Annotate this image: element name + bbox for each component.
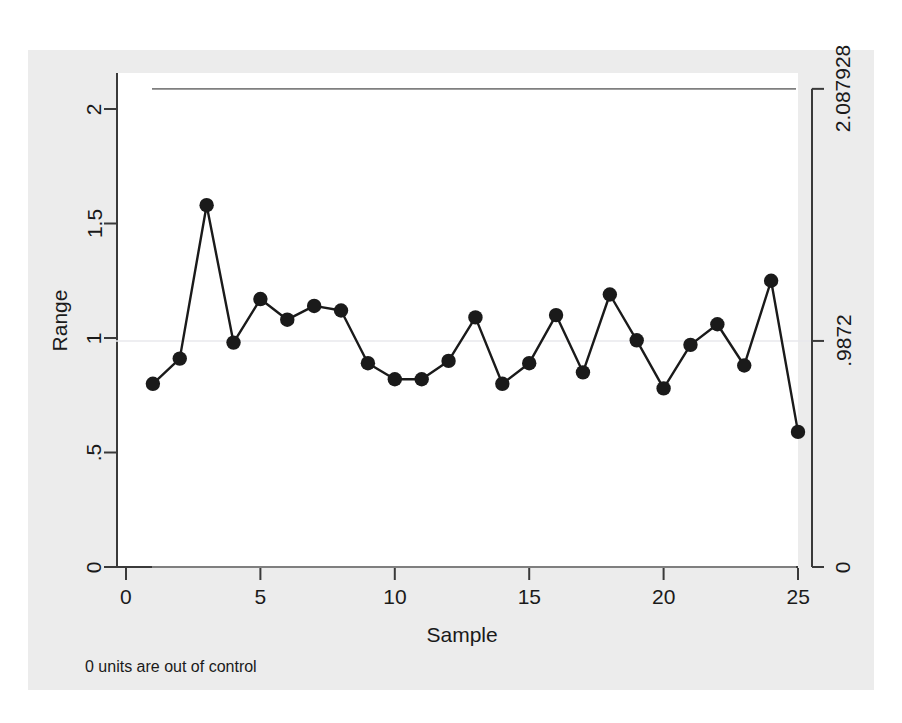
x-axis-title: Sample bbox=[427, 624, 498, 645]
data-point bbox=[280, 312, 294, 326]
data-point bbox=[226, 335, 240, 349]
x-tick-label-0: 0 bbox=[120, 586, 132, 607]
y-axis-title: Range bbox=[49, 289, 70, 351]
data-point bbox=[522, 356, 536, 370]
data-point bbox=[307, 299, 321, 313]
limit-label-cl: .9872 bbox=[832, 315, 853, 368]
y-tick-label-2: 2 bbox=[83, 103, 104, 115]
chart-svg bbox=[0, 0, 902, 723]
data-point bbox=[334, 303, 348, 317]
data-point bbox=[468, 310, 482, 324]
limit-label-ucl: 2.087928 bbox=[832, 45, 853, 133]
series-markers bbox=[146, 198, 806, 439]
data-point bbox=[388, 372, 402, 386]
x-tick-label-10: 10 bbox=[383, 586, 406, 607]
y-tick-label-.5: .5 bbox=[83, 444, 104, 462]
data-point bbox=[441, 354, 455, 368]
y-tick-label-0: 0 bbox=[83, 561, 104, 573]
data-point bbox=[549, 308, 563, 322]
x-tick-label-20: 20 bbox=[652, 586, 675, 607]
data-point bbox=[576, 365, 590, 379]
chart-canvas: Range Sample 0.511.5205101520252.087928.… bbox=[0, 0, 902, 723]
data-point bbox=[146, 377, 160, 391]
data-point bbox=[737, 358, 751, 372]
out-of-control-note: 0 units are out of control bbox=[85, 658, 257, 676]
data-point bbox=[791, 425, 805, 439]
data-point bbox=[361, 356, 375, 370]
data-point bbox=[710, 317, 724, 331]
y-tick-label-1.5: 1.5 bbox=[84, 209, 105, 238]
data-point bbox=[414, 372, 428, 386]
x-tick-label-5: 5 bbox=[254, 586, 266, 607]
data-point bbox=[495, 377, 509, 391]
data-point bbox=[173, 351, 187, 365]
y-axis-ticks bbox=[104, 109, 116, 567]
data-point bbox=[656, 381, 670, 395]
control-limit-lines bbox=[152, 89, 796, 567]
data-point bbox=[253, 292, 267, 306]
x-tick-label-15: 15 bbox=[518, 586, 541, 607]
data-point bbox=[630, 333, 644, 347]
right-axis-ticks bbox=[812, 89, 824, 567]
x-axis-ticks bbox=[126, 568, 798, 580]
y-tick-label-1: 1 bbox=[83, 332, 104, 344]
limit-label-lcl: 0 bbox=[832, 561, 853, 573]
x-tick-label-25: 25 bbox=[787, 586, 810, 607]
data-point bbox=[603, 287, 617, 301]
data-point bbox=[764, 274, 778, 288]
data-point bbox=[683, 338, 697, 352]
data-point bbox=[199, 198, 213, 212]
